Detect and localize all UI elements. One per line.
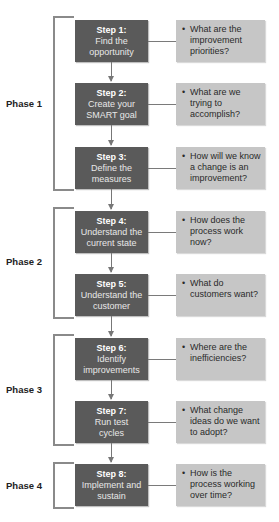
- step-4-line1: Understand the: [75, 227, 148, 238]
- step-6-line2: improvements: [75, 365, 148, 376]
- arrow-down-icon: [111, 443, 112, 462]
- phase-3-bracket: [53, 334, 74, 446]
- step-7-question: What change ideas do we want to adopt?: [190, 405, 261, 443]
- step-7-title: Step 7:: [75, 406, 148, 417]
- arrow-down-icon: [111, 253, 112, 272]
- arrow-down-icon: [111, 189, 112, 209]
- step-3-line2: measures: [75, 174, 148, 185]
- phase-1-bracket: [53, 16, 74, 191]
- bullet-icon: •: [182, 278, 190, 316]
- step-5-line1: Understand the: [75, 290, 148, 301]
- step-2-line2: SMART goal: [75, 110, 148, 121]
- step-1-box: Step 1: Find the opportunity: [75, 20, 148, 62]
- step-2-line1: Create your: [75, 99, 148, 110]
- phase-4-bracket: [53, 462, 74, 509]
- bullet-icon: •: [182, 342, 190, 380]
- step-2-question: What are we trying to accomplish?: [190, 87, 261, 125]
- step-1-question-box: • What are the improvement priorities?: [176, 20, 265, 62]
- phase-4-label: Phase 4: [6, 480, 42, 491]
- bullet-icon: •: [182, 468, 190, 506]
- bullet-icon: •: [182, 151, 190, 189]
- step-6-title: Step 6:: [75, 343, 148, 354]
- bullet-icon: •: [182, 215, 190, 253]
- step-6-connector: [148, 359, 176, 360]
- arrow-down-icon: [111, 316, 112, 336]
- arrow-down-icon: [111, 380, 112, 399]
- step-6-line1: Identify: [75, 354, 148, 365]
- step-3-connector: [148, 168, 176, 169]
- step-1-question: What are the improvement priorities?: [190, 24, 261, 62]
- step-8-title: Step 8:: [75, 469, 148, 480]
- step-4-question: How does the process work now?: [190, 215, 261, 253]
- arrow-down-icon: [111, 62, 112, 81]
- step-4-connector: [148, 232, 176, 233]
- phase-3-label: Phase 3: [6, 384, 42, 395]
- step-6-box: Step 6: Identify improvements: [75, 338, 148, 380]
- step-8-line1: Implement and: [75, 480, 148, 491]
- step-3-question: How will we know a change is an improvem…: [190, 151, 261, 189]
- step-3-title: Step 3:: [75, 152, 148, 163]
- step-3-question-box: • How will we know a change is an improv…: [176, 147, 265, 189]
- step-4-line2: current state: [75, 238, 148, 249]
- step-1-line1: Find the: [75, 36, 148, 47]
- step-7-box: Step 7: Run test cycles: [75, 401, 148, 443]
- bullet-icon: •: [182, 24, 190, 62]
- step-5-question: What do customers want?: [190, 278, 261, 316]
- step-8-question-box: • How is the process working over time?: [176, 464, 265, 506]
- step-1-title: Step 1:: [75, 25, 148, 36]
- step-4-title: Step 4:: [75, 216, 148, 227]
- step-8-connector: [148, 485, 176, 486]
- step-3-box: Step 3: Define the measures: [75, 147, 148, 189]
- step-7-line2: cycles: [75, 428, 148, 439]
- step-5-question-box: • What do customers want?: [176, 274, 265, 316]
- step-5-connector: [148, 295, 176, 296]
- step-1-connector: [148, 41, 176, 42]
- step-5-title: Step 5:: [75, 279, 148, 290]
- step-8-box: Step 8: Implement and sustain: [75, 464, 148, 506]
- bullet-icon: •: [182, 87, 190, 125]
- step-5-line2: customer: [75, 301, 148, 312]
- step-7-question-box: • What change ideas do we want to adopt?: [176, 401, 265, 443]
- phase-2-label: Phase 2: [6, 256, 42, 267]
- arrow-down-icon: [111, 125, 112, 145]
- step-6-question-box: • Where are the inefficiencies?: [176, 338, 265, 380]
- phase-2-bracket: [53, 207, 74, 319]
- step-2-connector: [148, 104, 176, 105]
- step-8-line2: sustain: [75, 491, 148, 502]
- step-8-question: How is the process working over time?: [190, 468, 261, 506]
- step-2-box: Step 2: Create your SMART goal: [75, 83, 148, 125]
- phase-1-label: Phase 1: [6, 98, 42, 109]
- step-1-line2: opportunity: [75, 47, 148, 58]
- step-4-box: Step 4: Understand the current state: [75, 211, 148, 253]
- step-4-question-box: • How does the process work now?: [176, 211, 265, 253]
- step-2-title: Step 2:: [75, 88, 148, 99]
- bullet-icon: •: [182, 405, 190, 443]
- step-3-line1: Define the: [75, 163, 148, 174]
- step-7-connector: [148, 422, 176, 423]
- step-2-question-box: • What are we trying to accomplish?: [176, 83, 265, 125]
- step-6-question: Where are the inefficiencies?: [190, 342, 261, 380]
- step-5-box: Step 5: Understand the customer: [75, 274, 148, 316]
- step-7-line1: Run test: [75, 417, 148, 428]
